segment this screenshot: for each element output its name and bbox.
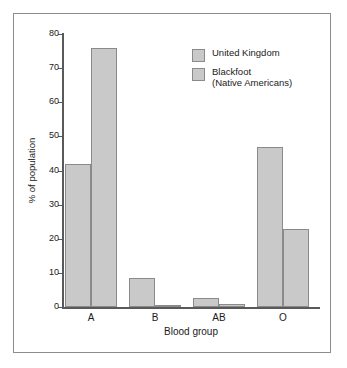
y-axis-title: % of population <box>26 115 37 225</box>
figure-frame: 01020304050607080 % of population Blood … <box>13 13 331 353</box>
bar-a-series-2 <box>91 48 117 307</box>
legend-item-1: United Kingdom <box>192 48 327 62</box>
x-axis-tick-label-o: O <box>263 312 303 323</box>
bar-ab-series-2 <box>219 304 245 307</box>
chart-legend: United KingdomBlackfoot (Native American… <box>192 48 327 93</box>
bar-ab-series-1 <box>193 298 219 307</box>
bar-o-series-1 <box>257 147 283 307</box>
y-axis-tick-label: 10 <box>19 268 59 277</box>
x-axis-tick-label-a: A <box>71 312 111 323</box>
legend-label-1: United Kingdom <box>212 48 280 59</box>
x-axis-tick-label-ab: AB <box>199 312 239 323</box>
x-axis-line <box>62 307 320 309</box>
y-axis-tick-label: 60 <box>19 97 59 106</box>
legend-swatch-blackfoot <box>192 68 205 81</box>
legend-swatch-united-kingdom <box>192 49 205 62</box>
legend-label-2: Blackfoot (Native Americans) <box>212 67 292 88</box>
bar-b-series-1 <box>129 278 155 307</box>
x-axis-tick-label-b: B <box>135 312 175 323</box>
figure-canvas: 01020304050607080 % of population Blood … <box>0 0 347 368</box>
y-axis-tick-label: 80 <box>19 29 59 38</box>
y-axis-tick-label: 70 <box>19 63 59 72</box>
y-axis-tick-label: 20 <box>19 234 59 243</box>
y-axis-tick-label: 0 <box>19 302 59 311</box>
bar-a-series-1 <box>65 164 91 307</box>
bar-o-series-2 <box>283 229 309 307</box>
legend-item-2: Blackfoot (Native Americans) <box>192 67 327 88</box>
x-axis-title: Blood group <box>63 326 319 337</box>
y-axis-tick-labels: 01020304050607080 <box>14 14 59 354</box>
bar-b-series-2 <box>155 305 181 307</box>
